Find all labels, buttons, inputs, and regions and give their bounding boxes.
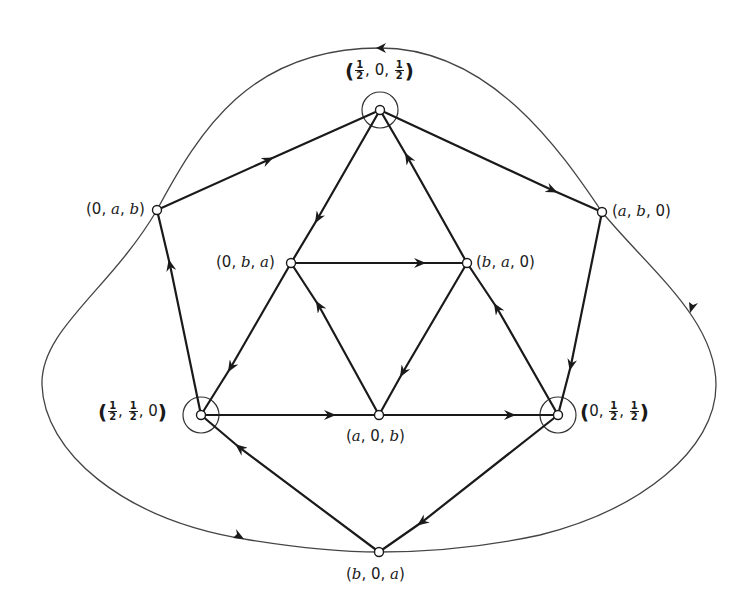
edge-P-I1 xyxy=(291,110,380,263)
node-R xyxy=(598,208,607,217)
label-B: (b, 0, a) xyxy=(346,567,405,582)
label-P: (12, 0, 12) xyxy=(345,60,414,81)
node-B xyxy=(375,548,384,557)
node-I1 xyxy=(287,259,296,268)
edge-L-P xyxy=(157,110,380,210)
graph-canvas xyxy=(0,0,751,612)
edge-I1-BL xyxy=(201,263,291,415)
edge-P-R xyxy=(380,110,602,212)
edge-I2-I3 xyxy=(379,263,467,415)
label-I1: (0, b, a) xyxy=(216,255,275,270)
label-I2: (b, a, 0) xyxy=(476,255,535,270)
outer-orbit-curve xyxy=(42,48,716,552)
node-I2 xyxy=(463,259,472,268)
label-BL: (12, 12, 0) xyxy=(98,401,167,422)
node-P xyxy=(376,106,385,115)
node-L xyxy=(153,206,162,215)
edge-R-BR xyxy=(558,212,602,415)
label-R: (a, b, 0) xyxy=(612,204,671,219)
label-I3: (a, 0, b) xyxy=(346,429,405,444)
edge-I3-I1 xyxy=(291,263,379,415)
label-L: (0, a, b) xyxy=(86,202,145,217)
label-BR: (0, 12, 12) xyxy=(580,401,649,422)
edge-BL-L xyxy=(157,210,201,415)
edge-BR-B xyxy=(379,415,558,552)
edge-BR-I2 xyxy=(467,263,558,415)
edge-I2-P xyxy=(380,110,467,263)
node-I3 xyxy=(375,411,384,420)
orbit-arrow-bottom-left xyxy=(233,529,244,539)
orbit-arrow-right xyxy=(689,302,698,313)
node-BL xyxy=(197,411,206,420)
node-BR xyxy=(554,411,563,420)
